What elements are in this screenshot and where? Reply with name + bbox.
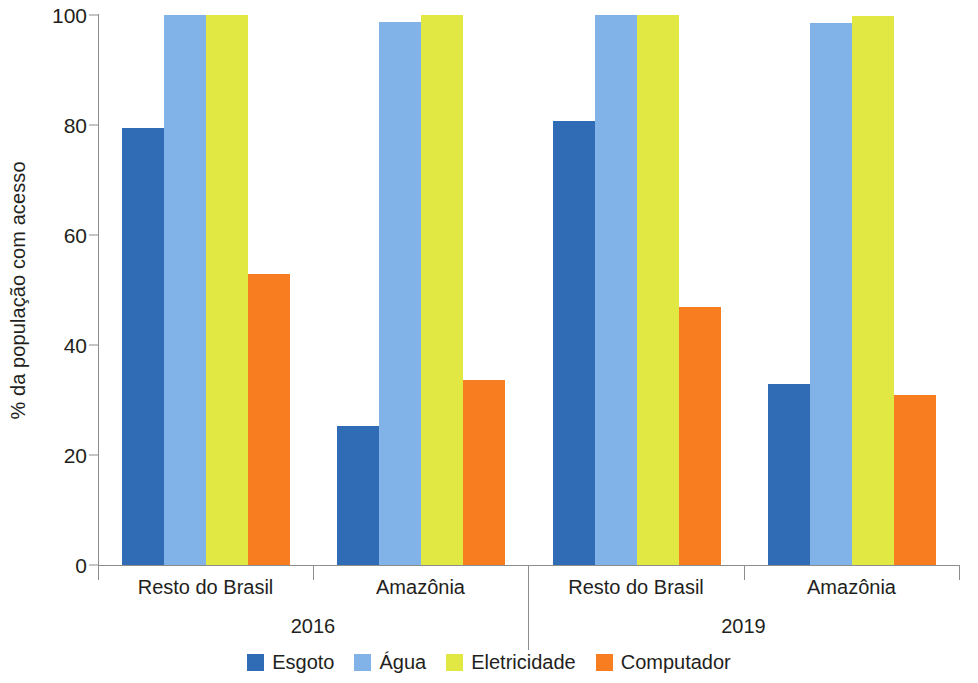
bar-computador-g2[interactable] bbox=[679, 307, 721, 566]
bar-eletricidade-g0[interactable] bbox=[206, 15, 248, 565]
legend-label: Esgoto bbox=[272, 652, 334, 672]
period-label-2019: 2019 bbox=[528, 615, 959, 638]
y-tick-label: 60 bbox=[64, 225, 87, 246]
period-label-2016: 2016 bbox=[98, 615, 528, 638]
y-axis-title: % da população com acesso bbox=[0, 0, 36, 580]
bar-eletricidade-g2[interactable] bbox=[637, 15, 679, 565]
group-divider bbox=[959, 566, 960, 580]
category-axis: Resto do Brasil Amazônia Resto do Brasil… bbox=[98, 566, 960, 650]
y-tick-mark bbox=[89, 345, 98, 346]
bar-computador-g1[interactable] bbox=[463, 380, 505, 565]
legend-label: Água bbox=[379, 652, 426, 672]
y-tick-label: 100 bbox=[52, 5, 87, 26]
bar-computador-g3[interactable] bbox=[894, 395, 936, 566]
bar-eletricidade-g1[interactable] bbox=[421, 15, 463, 565]
legend-swatch-icon bbox=[596, 654, 613, 671]
y-tick-mark bbox=[89, 455, 98, 456]
y-tick-label: 20 bbox=[64, 445, 87, 466]
legend-item-3[interactable]: Computador bbox=[596, 652, 731, 672]
y-axis-line bbox=[98, 14, 99, 565]
y-axis-title-text: % da população com acesso bbox=[7, 161, 30, 419]
y-tick-label: 40 bbox=[64, 335, 87, 356]
bar-esgoto-g0[interactable] bbox=[122, 128, 164, 565]
legend-swatch-icon bbox=[446, 654, 463, 671]
legend-swatch-icon bbox=[354, 654, 371, 671]
bar-esgoto-g3[interactable] bbox=[768, 384, 810, 566]
bar-esgoto-g2[interactable] bbox=[553, 121, 595, 565]
y-tick-label: 80 bbox=[64, 115, 87, 136]
legend-item-2[interactable]: Eletricidade bbox=[446, 652, 576, 672]
y-tick-mark bbox=[89, 235, 98, 236]
category-label-g1: Amazônia bbox=[313, 576, 528, 599]
grouped-bar-chart: % da população com acesso 020406080100 R… bbox=[0, 0, 978, 683]
bar-esgoto-g1[interactable] bbox=[337, 426, 379, 565]
y-tick-label: 0 bbox=[75, 555, 87, 576]
legend-label: Computador bbox=[621, 652, 731, 672]
bar-gua-g3[interactable] bbox=[810, 23, 852, 565]
legend-swatch-icon bbox=[247, 654, 264, 671]
chart-legend: EsgotoÁguaEletricidadeComputador bbox=[0, 652, 978, 672]
legend-item-1[interactable]: Água bbox=[354, 652, 426, 672]
bar-gua-g1[interactable] bbox=[379, 22, 421, 565]
y-tick-mark bbox=[89, 125, 98, 126]
legend-item-0[interactable]: Esgoto bbox=[247, 652, 334, 672]
bar-gua-g2[interactable] bbox=[595, 15, 637, 565]
bar-computador-g0[interactable] bbox=[248, 274, 290, 566]
category-label-g3: Amazônia bbox=[744, 576, 959, 599]
y-tick-mark bbox=[89, 15, 98, 16]
plot-area: 020406080100 bbox=[98, 15, 960, 565]
bar-gua-g0[interactable] bbox=[164, 15, 206, 565]
category-label-g2: Resto do Brasil bbox=[528, 576, 744, 599]
category-label-g0: Resto do Brasil bbox=[98, 576, 313, 599]
bar-eletricidade-g3[interactable] bbox=[852, 16, 894, 565]
y-tick-mark bbox=[89, 565, 98, 566]
legend-label: Eletricidade bbox=[471, 652, 576, 672]
